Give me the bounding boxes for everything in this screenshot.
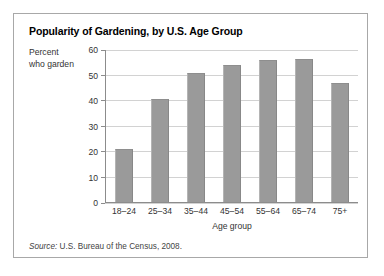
bar [187,73,206,202]
y-axis-line [105,50,106,203]
bar-slot [178,50,214,202]
bar [295,59,314,202]
y-axis-tick-label: 40 [88,96,98,106]
bar-slot [322,50,358,202]
source-text: U.S. Bureau of the Census, 2008. [57,242,182,251]
bars-layer [106,50,358,202]
figure-frame: Popularity of Gardening, by U.S. Age Gro… [13,13,368,258]
x-axis-tick-label: 65–74 [286,206,322,216]
y-axis-tick-label: 20 [88,147,98,157]
y-axis-tick-label: 10 [88,173,98,183]
bar-slot [142,50,178,202]
bar-slot [106,50,142,202]
chart-title: Popularity of Gardening, by U.S. Age Gro… [29,25,243,37]
x-axis-tick-label: 35–44 [178,206,214,216]
x-axis-tick-label: 55–64 [250,206,286,216]
y-axis-tick-label: 30 [88,122,98,132]
bar-slot [214,50,250,202]
y-axis-title-line1: Percent [29,47,74,59]
x-axis-tick-label: 75+ [322,206,358,216]
bar [115,149,134,202]
x-axis-tick-label: 45–54 [214,206,250,216]
x-axis-tick-label: 18–24 [106,206,142,216]
bar [259,60,278,202]
y-axis-title-line2: who garden [29,59,74,71]
x-axis-title: Age group [106,221,358,231]
y-axis-title: Percent who garden [29,47,74,70]
bar [223,65,242,202]
y-axis-tick-label: 60 [88,45,98,55]
bar-slot [286,50,322,202]
x-axis-tick-label: 25–34 [142,206,178,216]
plot-area: 6050403020100 [105,50,358,203]
x-axis-tick-labels: 18–2425–3435–4445–5455–6465–7475+ [106,206,358,216]
y-axis-tick-label: 0 [93,198,98,208]
x-axis-line [105,202,358,203]
source-label: Source: [29,242,57,251]
bar-slot [250,50,286,202]
bar [331,83,350,202]
y-axis-tick-label: 50 [88,71,98,81]
bar [151,99,170,202]
source-note: Source: U.S. Bureau of the Census, 2008. [29,242,182,251]
